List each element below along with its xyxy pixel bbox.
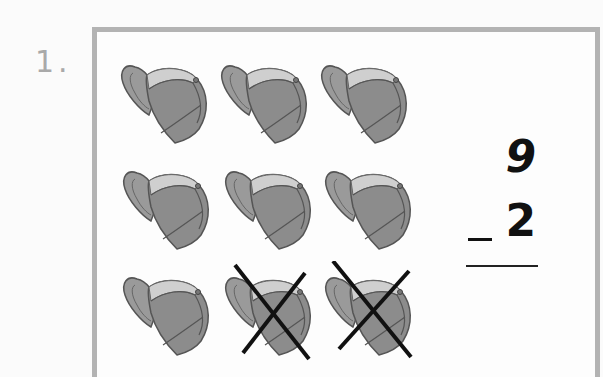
problem-frame: 9 2 <box>92 27 600 377</box>
cap-icon <box>119 155 219 255</box>
answer-line[interactable] <box>466 265 538 267</box>
cap-icon <box>321 155 421 255</box>
cap-icon <box>119 261 219 361</box>
minus-sign <box>468 238 492 241</box>
cap-icon <box>117 49 217 149</box>
cap-icon <box>317 49 417 149</box>
cap-icon-crossed <box>221 261 321 361</box>
cap-icon <box>217 49 317 149</box>
problem-number: 1. <box>35 44 72 79</box>
minuend: 9 <box>505 132 536 182</box>
cap-icon <box>221 155 321 255</box>
subtrahend: 2 <box>505 196 536 246</box>
cap-icon-crossed <box>321 261 421 361</box>
